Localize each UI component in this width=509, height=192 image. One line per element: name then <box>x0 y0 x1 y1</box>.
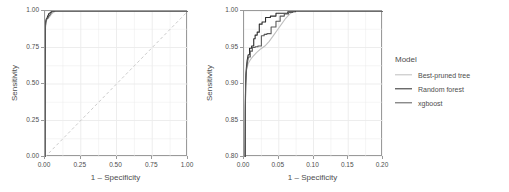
y-tick-label: 0.50 <box>18 79 39 86</box>
x-tick-label: 0.10 <box>299 161 327 168</box>
legend-title: Model <box>395 55 509 64</box>
y-tick-label: 0.80 <box>217 152 238 159</box>
x-axis-title-zoomed: 1 – Specificity <box>243 173 382 182</box>
x-tick-mark <box>347 156 348 159</box>
y-tick-mark <box>41 120 44 121</box>
roc-curves-full <box>45 11 188 157</box>
x-axis-title-full: 1 – Specificity <box>44 173 187 182</box>
x-tick-label: 0.20 <box>368 161 396 168</box>
legend-entry: Best-pruned tree <box>395 71 509 79</box>
x-tick-mark <box>278 156 279 159</box>
y-tick-mark <box>240 10 243 11</box>
legend: Model Best-pruned treeRandom forestxgboo… <box>395 55 509 113</box>
x-tick-label: 0.50 <box>102 161 130 168</box>
panel-full-roc: 0.000.250.500.751.00 0.000.250.500.751.0… <box>0 0 195 192</box>
x-tick-mark <box>187 156 188 159</box>
y-tick-mark <box>240 47 243 48</box>
legend-entry-label: Random forest <box>418 86 464 93</box>
x-tick-mark <box>44 156 45 159</box>
y-tick-mark <box>41 10 44 11</box>
x-tick-mark <box>313 156 314 159</box>
y-tick-label: 0.25 <box>18 116 39 123</box>
y-tick-label: 1.00 <box>18 6 39 13</box>
x-tick-label: 0.05 <box>264 161 292 168</box>
plot-area-full-roc <box>44 10 187 156</box>
panel-zoomed-roc: 0.800.850.900.951.00 0.000.050.100.150.2… <box>195 0 390 192</box>
roc-curves-zoomed <box>244 11 383 157</box>
y-tick-label: 0.95 <box>217 43 238 50</box>
x-tick-label: 0.00 <box>229 161 257 168</box>
x-tick-label: 0.00 <box>30 161 58 168</box>
legend-color-swatch <box>395 99 412 107</box>
y-tick-label: 1.00 <box>217 6 238 13</box>
legend-entry-label: Best-pruned tree <box>418 72 470 79</box>
x-tick-label: 0.25 <box>66 161 94 168</box>
y-tick-label: 0.90 <box>217 79 238 86</box>
plot-area-zoomed-roc <box>243 10 382 156</box>
y-tick-mark <box>240 120 243 121</box>
roc-figure: 0.000.250.500.751.00 0.000.250.500.751.0… <box>0 0 509 192</box>
legend-color-swatch <box>395 71 412 79</box>
y-tick-label: 0.75 <box>18 43 39 50</box>
y-tick-mark <box>240 83 243 84</box>
y-tick-mark <box>41 47 44 48</box>
x-tick-mark <box>80 156 81 159</box>
legend-entry: xgboost <box>395 99 509 107</box>
x-tick-mark <box>116 156 117 159</box>
x-tick-mark <box>243 156 244 159</box>
x-tick-label: 0.75 <box>137 161 165 168</box>
y-tick-label: 0.85 <box>217 116 238 123</box>
x-tick-label: 0.15 <box>333 161 361 168</box>
x-tick-mark <box>382 156 383 159</box>
y-tick-label: 0.00 <box>18 152 39 159</box>
y-axis-title-zoomed: Sensitivity <box>205 55 214 111</box>
y-axis-title-full: Sensitivity <box>10 55 19 111</box>
legend-entry: Random forest <box>395 85 509 93</box>
legend-color-swatch <box>395 85 412 93</box>
y-tick-mark <box>41 83 44 84</box>
legend-entry-label: xgboost <box>418 100 443 107</box>
legend-entries: Best-pruned treeRandom forestxgboost <box>395 71 509 107</box>
x-tick-mark <box>151 156 152 159</box>
